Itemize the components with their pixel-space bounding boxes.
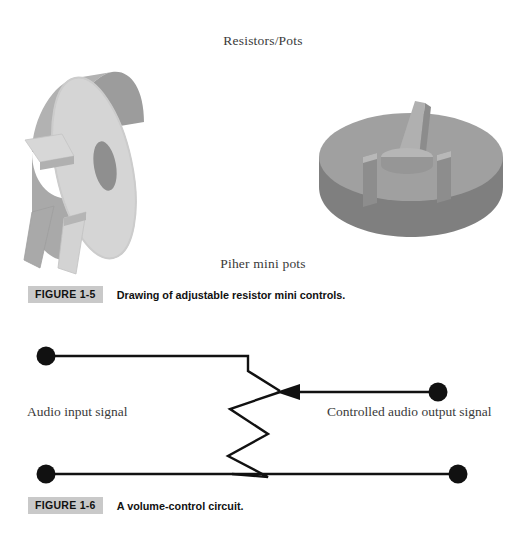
pot-right-tab-right: [437, 151, 451, 203]
figure-1-5-caption-text: Drawing of adjustable resistor mini cont…: [117, 289, 346, 301]
wire-input-top: [46, 356, 280, 391]
figure-1-6-caption: FIGURE 1-6 A volume-control circuit.: [28, 497, 244, 514]
pot-right-drawing: [315, 95, 515, 245]
figure-1-6-caption-text: A volume-control circuit.: [117, 500, 244, 512]
figure-1-6-badge: FIGURE 1-6: [28, 497, 103, 514]
figure-page: Resistors/Pots: [0, 0, 526, 536]
figure-1-5-caption: FIGURE 1-5 Drawing of adjustable resisto…: [28, 286, 345, 303]
input-top-terminal: [37, 347, 56, 366]
output-terminal: [429, 383, 448, 402]
input-bottom-terminal: [37, 465, 56, 484]
audio-output-label: Controlled audio output signal: [327, 404, 492, 420]
ground-right-terminal: [449, 465, 468, 484]
piher-mini-pots-label: Piher mini pots: [0, 256, 526, 272]
figure-1-5-badge: FIGURE 1-5: [28, 286, 103, 303]
audio-input-label: Audio input signal: [27, 404, 128, 420]
resistor-zigzag: [228, 392, 280, 477]
pot-right-tab-left: [363, 153, 377, 207]
wiper-arrow-icon: [276, 384, 300, 400]
pot-right-adjust-slot: [381, 148, 433, 174]
pot-left-drawing: [10, 60, 170, 270]
section-title: Resistors/Pots: [0, 33, 526, 49]
